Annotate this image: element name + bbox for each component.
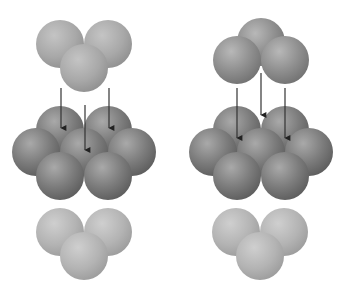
top-layer (36, 18, 309, 92)
right-middle-sphere (213, 152, 261, 200)
left-top-sphere (60, 44, 108, 92)
bottom-layer (36, 208, 308, 280)
left-bottom-sphere (60, 232, 108, 280)
right-middle-sphere (261, 152, 309, 200)
right-top-sphere (261, 36, 309, 84)
left-middle-sphere (84, 152, 132, 200)
left-middle-sphere (36, 152, 84, 200)
sphere-packing-diagram (0, 0, 348, 308)
right-top-sphere (213, 36, 261, 84)
right-bottom-sphere (236, 232, 284, 280)
